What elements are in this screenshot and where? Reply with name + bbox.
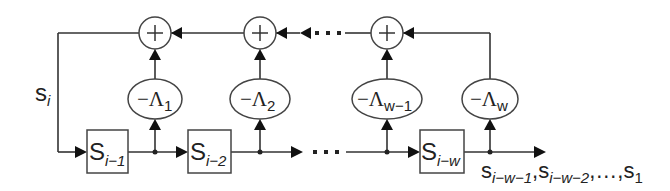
adder-1 <box>139 17 171 49</box>
coef-to-adder-links <box>149 49 393 79</box>
arrow-right-icon <box>291 146 303 158</box>
junction-dot <box>258 150 263 155</box>
arrow-left-icon <box>403 27 414 39</box>
junction-dot <box>153 150 158 155</box>
output-label: si−w−1,si−w−2,…,s1 <box>481 158 643 186</box>
arrow-right-icon <box>408 146 420 158</box>
arrow-right-icon <box>75 146 87 158</box>
arrow-left-icon <box>300 27 311 39</box>
junction-dot <box>488 150 493 155</box>
junction-dot <box>385 150 390 155</box>
arrow-left-icon <box>276 27 287 39</box>
adder-2 <box>244 17 276 49</box>
coefficient-w-minus-1: −Λw−1 <box>352 79 422 119</box>
top-ellipsis <box>315 31 341 35</box>
arrow-left-icon <box>171 27 182 39</box>
arrow-right-icon <box>176 146 188 158</box>
bottom-ellipsis <box>313 150 339 154</box>
lfsr-diagram: −Λ1 −Λ2 −Λw−1 −Λw <box>0 0 670 191</box>
coefficient-w: −Λw <box>462 79 518 119</box>
register-2: Si−2 <box>188 130 231 173</box>
input-label: si <box>35 79 51 109</box>
register-1: Si−1 <box>87 130 128 173</box>
register-w: Si−w <box>420 130 464 173</box>
arrow-right-icon <box>534 146 546 158</box>
adder-3 <box>371 17 403 49</box>
coefficient-2: −Λ2 <box>230 79 290 119</box>
coefficient-1: −Λ1 <box>128 79 182 119</box>
